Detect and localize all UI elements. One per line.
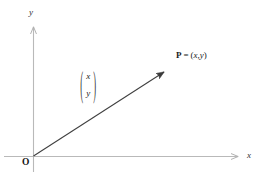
column-vector-open-paren: ( <box>80 67 83 103</box>
origin-label: O <box>22 158 29 168</box>
x-axis-label: x <box>247 151 251 160</box>
coord-close-paren: ) <box>204 50 207 60</box>
equals-sign: = <box>184 51 189 60</box>
column-vector-notation: ( x y ) <box>80 68 97 102</box>
point-name: P <box>176 51 182 60</box>
position-vector-arrow <box>34 72 165 156</box>
column-vector-close-paren: ) <box>94 67 97 103</box>
vector-diagram: y x O P = (x,y) ( x y ) <box>0 0 264 182</box>
column-vector-top-component: x <box>86 68 90 85</box>
point-label: P = (x,y) <box>176 51 207 60</box>
diagram-canvas <box>0 0 264 182</box>
point-coordinates: (x,y) <box>191 51 207 60</box>
y-axis-label: y <box>29 8 33 17</box>
column-vector-components: x y <box>83 68 93 102</box>
column-vector-bottom-component: y <box>86 85 90 102</box>
